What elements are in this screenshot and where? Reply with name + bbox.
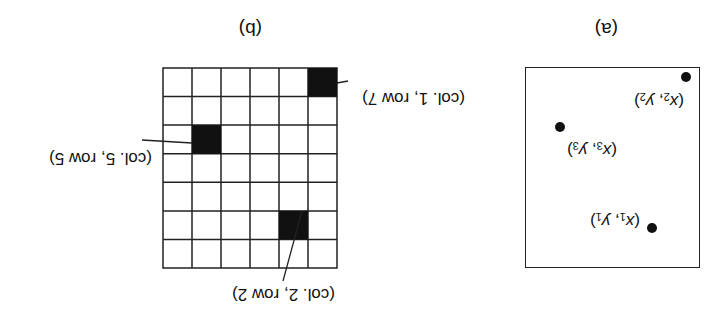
callout-col1-row7: (col. 1, row 7): [362, 90, 465, 107]
panel-b-caption: (b): [239, 18, 262, 40]
callout-col5-row5: (col. 5, row 5): [49, 150, 152, 167]
filled-cell-col2-row2: [279, 211, 308, 240]
callout-col2-row2: (col. 2, row 2): [232, 286, 335, 303]
filled-cell-col5-row5: [192, 125, 221, 154]
filled-cell-col1-row7: [308, 68, 337, 97]
figure: (x1, y1) (x2, y2) (x3, y3) (a): [0, 0, 720, 325]
